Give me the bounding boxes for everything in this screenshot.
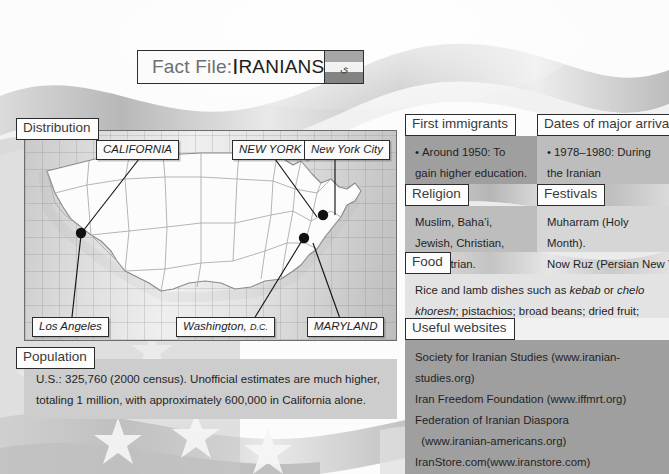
useful-websites-heading: Useful websites bbox=[405, 318, 515, 340]
map-label-california: CALIFORNIA bbox=[96, 140, 179, 160]
religion-heading-wrap: Religion bbox=[405, 184, 469, 206]
dot-los-angeles bbox=[76, 228, 86, 238]
row-immigrants-dates: First immigrants •Around 1950: To gain h… bbox=[405, 114, 669, 184]
website-line[interactable]: Federation of Iranian Diaspora bbox=[415, 410, 660, 431]
website-line[interactable]: Society for Iranian Studies (www.iranian… bbox=[415, 347, 660, 389]
page-title: Fact File: IRANIANS bbox=[138, 51, 324, 83]
festivals-section: Festivals Muharram (Holy Month). Now Ruz… bbox=[537, 184, 669, 252]
useful-websites-section: Useful websites Society for Iranian Stud… bbox=[405, 318, 669, 474]
festivals-heading: Festivals bbox=[537, 184, 605, 206]
bullet-icon: • bbox=[547, 146, 551, 158]
map-label-los-angeles: Los Angeles bbox=[32, 317, 109, 337]
website-line[interactable]: Iran Freedom Foundation (www.iffmrt.org) bbox=[415, 389, 660, 410]
festivals-body: Muharram (Holy Month). Now Ruz (Persian … bbox=[537, 206, 669, 252]
leader-los-angeles bbox=[71, 235, 81, 326]
leader-maryland bbox=[313, 243, 343, 327]
festivals-line-1: Muharram (Holy Month). bbox=[547, 212, 660, 254]
population-heading-wrap: Population bbox=[16, 347, 95, 369]
food-heading-wrap: Food bbox=[405, 252, 451, 274]
title-rest: RANIANS bbox=[238, 56, 324, 78]
festivals-heading-wrap: Festivals bbox=[537, 184, 605, 206]
fact-file-title-bar: Fact File: IRANIANS ی bbox=[137, 50, 364, 84]
flag-band-red bbox=[325, 72, 363, 83]
religion-section: Religion Muslim, Baha’i, Jewish, Christi… bbox=[405, 184, 537, 252]
facts-column: First immigrants •Around 1950: To gain h… bbox=[405, 114, 669, 474]
food-text: Rice and lamb dishes such as kebab or ch… bbox=[405, 274, 669, 318]
usa-landmass bbox=[47, 153, 361, 291]
map-label-washington-dc: Washington, D.C. bbox=[176, 317, 275, 337]
flag-emblem-icon: ی bbox=[325, 63, 363, 74]
iran-flag-icon: ی bbox=[324, 51, 363, 83]
dot-washington-dc bbox=[299, 233, 309, 243]
map-label-new-york: NEW YORK bbox=[232, 140, 308, 160]
distribution-panel: Distribution bbox=[16, 118, 397, 341]
distribution-heading-wrap: Distribution bbox=[16, 118, 99, 140]
dates-arrivals-heading: Dates of major arrivals bbox=[537, 114, 669, 136]
map-label-maryland: MARYLAND bbox=[307, 317, 384, 337]
dates-arrivals-heading-wrap: Dates of major arrivals bbox=[537, 114, 669, 136]
flag-band-green bbox=[325, 51, 363, 62]
usa-outline bbox=[47, 153, 361, 291]
row-religion-festivals: Religion Muslim, Baha’i, Jewish, Christi… bbox=[405, 184, 669, 252]
usa-map bbox=[25, 131, 397, 341]
website-line[interactable]: IranStore.com(www.iranstore.com) bbox=[415, 452, 660, 473]
religion-text: Muslim, Baha’i, Jewish, Christian, Zoroa… bbox=[405, 206, 537, 252]
title-prefix: Fact File: bbox=[152, 56, 232, 78]
useful-websites-heading-wrap: Useful websites bbox=[405, 318, 515, 340]
first-immigrants-body: •Around 1950: To gain higher education. bbox=[405, 136, 537, 184]
first-immigrants-heading-wrap: First immigrants bbox=[405, 114, 516, 136]
map-label-dc-suffix: D.C. bbox=[250, 322, 268, 332]
food-part-2: or bbox=[601, 284, 617, 296]
dates-arrivals-section: Dates of major arrivals •1978–1980: Duri… bbox=[537, 114, 669, 184]
religion-heading: Religion bbox=[405, 184, 469, 206]
first-immigrants-text: Around 1950: To gain higher education. bbox=[415, 146, 527, 179]
food-part-1: Rice and lamb dishes such as bbox=[415, 284, 570, 296]
bullet-icon: • bbox=[415, 146, 419, 158]
distribution-heading: Distribution bbox=[16, 118, 99, 140]
food-section: Food Rice and lamb dishes such as kebab … bbox=[405, 252, 669, 318]
map-label-new-york-city: New York City bbox=[304, 140, 390, 160]
website-line[interactable]: (www.iranian-americans.org) bbox=[415, 431, 660, 452]
food-heading: Food bbox=[405, 252, 451, 274]
map-frame bbox=[24, 130, 397, 341]
dates-arrivals-body: •1978–1980: During the Iranian Revolutio… bbox=[537, 136, 669, 184]
dot-new-york-city bbox=[318, 210, 328, 220]
food-em-1: kebab bbox=[570, 284, 601, 296]
population-heading: Population bbox=[16, 347, 95, 369]
useful-websites-body: Society for Iranian Studies (www.iranian… bbox=[405, 340, 669, 474]
first-immigrants-heading: First immigrants bbox=[405, 114, 516, 136]
food-part-3: ; pistachios; broad beans; dried fruit; bbox=[456, 305, 640, 317]
first-immigrants-section: First immigrants •Around 1950: To gain h… bbox=[405, 114, 537, 184]
